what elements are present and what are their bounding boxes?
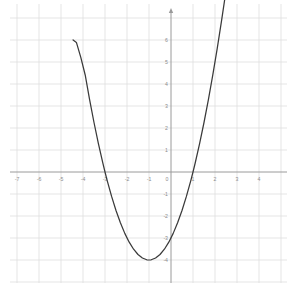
x-tick-label: 3 bbox=[236, 176, 239, 182]
y-tick-label: 2 bbox=[165, 125, 168, 131]
x-tick-label: -1 bbox=[147, 176, 152, 182]
y-tick-label: 6 bbox=[165, 37, 168, 43]
y-tick-label: 4 bbox=[165, 81, 168, 87]
x-tick-label: -6 bbox=[37, 176, 42, 182]
y-tick-label: -4 bbox=[163, 257, 168, 263]
y-tick-label: -1 bbox=[163, 191, 168, 197]
y-tick-label: 3 bbox=[165, 103, 168, 109]
y-tick-label: 1 bbox=[165, 147, 168, 153]
x-tick-label: 0 bbox=[166, 176, 169, 182]
y-tick-label: -2 bbox=[163, 213, 168, 219]
graph-figure: -7-6-5-4-3-2-101234 654321-1-2-3-4 bbox=[0, 0, 293, 287]
x-tick-label: -4 bbox=[81, 176, 86, 182]
x-tick-label: -5 bbox=[59, 176, 64, 182]
x-tick-label: -7 bbox=[15, 176, 20, 182]
coordinate-plane: -7-6-5-4-3-2-101234 654321-1-2-3-4 bbox=[0, 0, 293, 287]
y-tick-label: 5 bbox=[165, 59, 168, 65]
plot-background bbox=[0, 0, 293, 287]
x-tick-label: 4 bbox=[258, 176, 261, 182]
x-tick-label: -2 bbox=[125, 176, 130, 182]
y-tick-label: -3 bbox=[163, 235, 168, 241]
x-tick-label: 2 bbox=[214, 176, 217, 182]
